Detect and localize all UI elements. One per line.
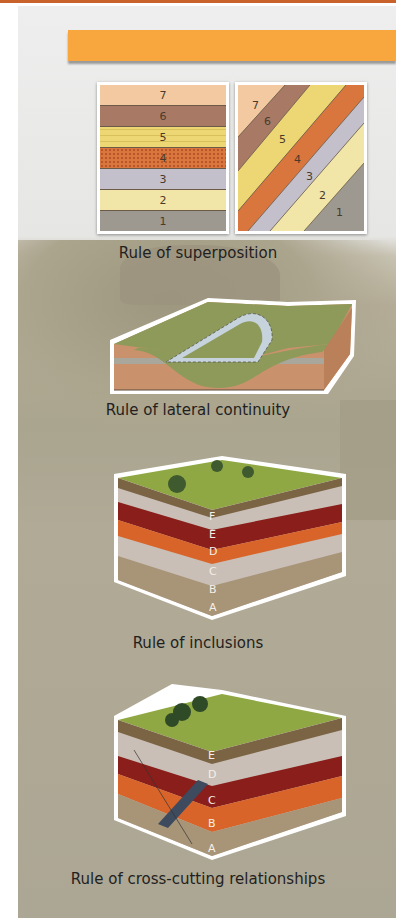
tilted-label-1: 1 [336,206,343,219]
inclusions-label-c: C [209,565,217,578]
inclusions-label-f: F [209,510,215,523]
tilted-label-7: 7 [252,99,259,112]
cross-cutting-block-diagram [112,676,348,862]
inclusions-label-a: A [209,601,217,614]
layer-4: 4 [100,148,226,169]
layer-1: 1 [100,211,226,231]
section-header-band [68,30,396,61]
tilted-label-3: 3 [306,170,313,183]
layer-7: 7 [100,85,226,106]
layer-6: 6 [100,106,226,127]
cross-cutting-label-d: D [208,768,216,781]
layer-3: 3 [100,169,226,190]
tilted-label-2: 2 [319,189,326,202]
tilted-label-5: 5 [279,133,286,146]
tilted-label-4: 4 [294,153,301,166]
tilted-label-6: 6 [264,115,271,128]
inclusions-label-d: D [209,545,217,558]
superposition-tilted-panel: 7 6 5 4 3 2 1 [235,82,367,234]
cross-cutting-label-b: B [208,817,216,830]
top-rule [0,0,396,3]
inclusions-block-diagram [112,452,348,622]
layer-2: 2 [100,190,226,211]
caption-inclusions: Rule of inclusions [0,634,396,652]
caption-cross-cutting: Rule of cross-cutting relationships [0,870,396,888]
inclusions-label-b: B [209,583,217,596]
lateral-continuity-diagram [108,290,356,396]
caption-superposition: Rule of superposition [0,244,396,262]
cross-cutting-label-c: C [208,794,216,807]
layer-5: 5 [100,127,226,148]
inclusions-label-e: E [209,528,216,541]
cross-cutting-label-a: A [208,842,216,855]
superposition-horizontal-panel: 7 6 5 4 3 2 1 [97,82,229,234]
cross-cutting-label-e: E [208,749,215,762]
caption-lateral-continuity: Rule of lateral continuity [0,401,396,419]
